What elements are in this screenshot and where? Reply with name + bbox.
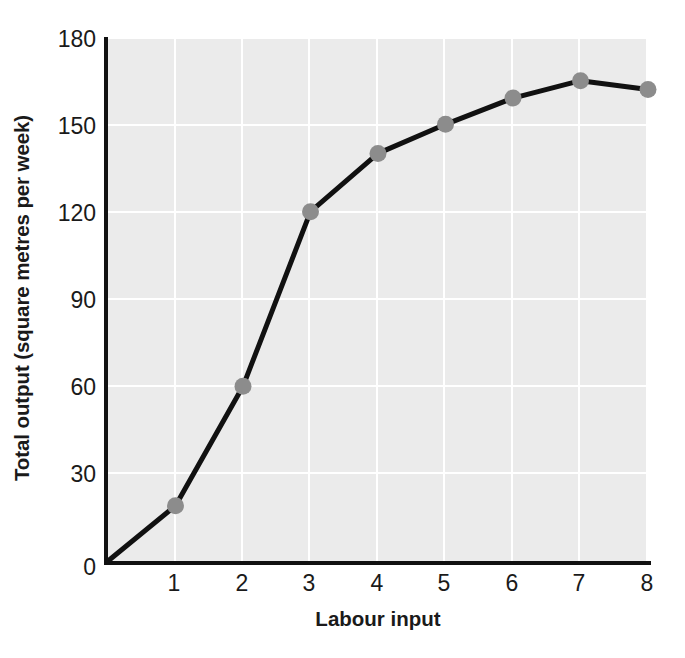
data-point-marker [167,497,184,514]
data-point-marker [370,145,387,162]
data-point-marker [572,72,589,89]
data-point-marker [235,378,252,395]
x-axis-title-text: Labour input [315,607,440,630]
data-series-layer [0,0,685,658]
data-point-marker [437,116,454,133]
data-point-marker [640,81,657,98]
x-axis-title: Labour input [108,607,648,631]
data-point-marker [505,90,522,107]
chart-figure: Total output (square metres per week) 18… [0,0,685,658]
data-point-marker [302,203,319,220]
